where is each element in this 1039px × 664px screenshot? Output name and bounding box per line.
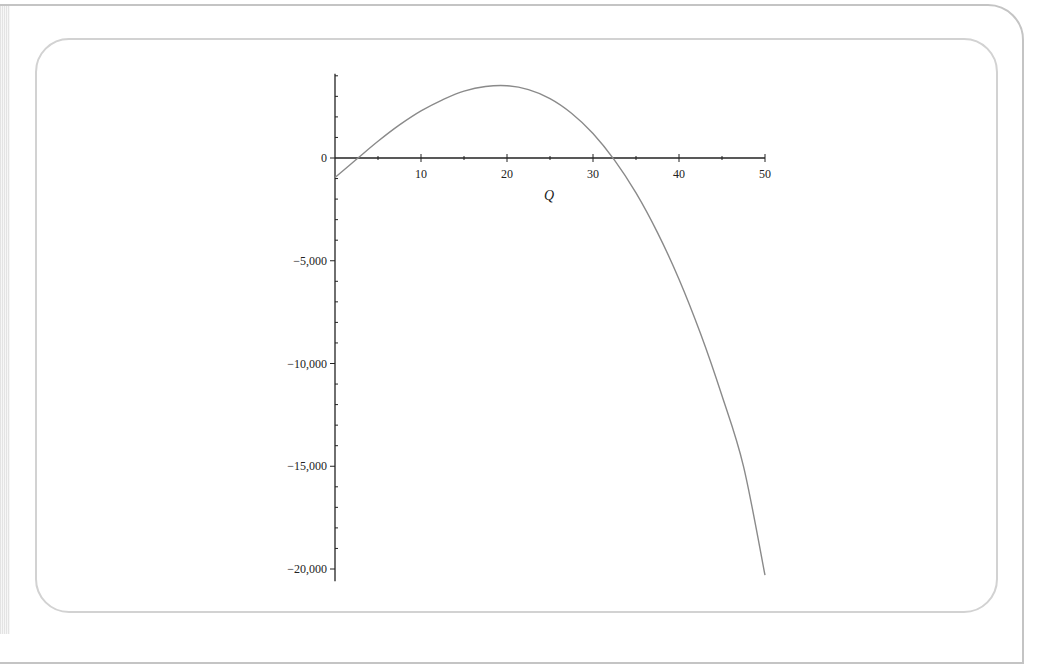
axes [335, 74, 765, 582]
y-tick-label: −15,000 [287, 459, 327, 473]
y-tick-label: −20,000 [287, 562, 327, 576]
x-tick-label: 10 [415, 167, 427, 181]
ticks [330, 76, 765, 569]
y-tick-label: 0 [321, 151, 327, 165]
x-tick-label: 50 [759, 167, 771, 181]
x-axis-title: Q [544, 188, 554, 203]
x-tick-label: 40 [673, 167, 685, 181]
y-tick-label: −5,000 [293, 254, 327, 268]
tick-labels: 10203040500−5,000−10,000−15,000−20,000 [287, 151, 771, 576]
x-tick-label: 20 [501, 167, 513, 181]
y-tick-label: −10,000 [287, 357, 327, 371]
x-tick-label: 30 [587, 167, 599, 181]
